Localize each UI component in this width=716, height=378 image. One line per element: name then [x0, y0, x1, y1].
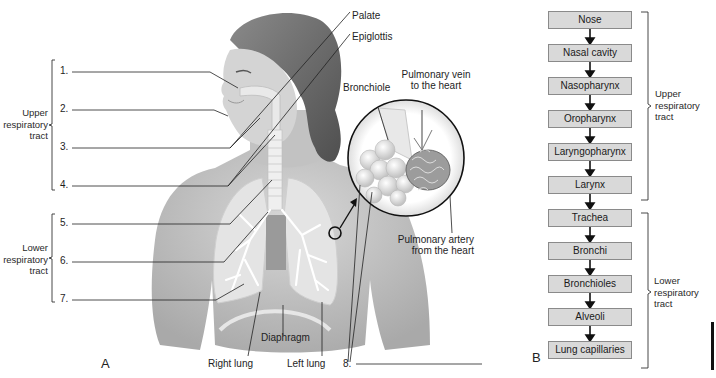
upper-tract-label-b: Upper respiratory tract — [655, 88, 700, 123]
upper-tract-label-a: Upper respiratory tract — [2, 107, 48, 142]
label-line: Upper — [655, 88, 700, 100]
flow-box-bronchi: Bronchi — [548, 242, 632, 260]
trachea-illustration — [268, 130, 282, 210]
flow-box-trachea: Trachea — [548, 209, 632, 227]
edge-bar — [711, 322, 714, 370]
flow-box-bronchioles: Bronchioles — [548, 275, 632, 293]
label-line: Upper — [2, 107, 48, 119]
diaphragm-label: Diaphragm — [261, 332, 310, 343]
pulmonary-vein-label: Pulmonary vein to the heart — [392, 69, 480, 91]
epiglottis-label: Epiglottis — [352, 31, 393, 42]
flow-box-nasal-cavity: Nasal cavity — [548, 44, 632, 62]
label-line: tract — [654, 298, 699, 310]
flow-box-nasopharynx: Nasopharynx — [548, 77, 632, 95]
bronchiole-label: Bronchiole — [343, 82, 390, 93]
palate-label: Palate — [352, 10, 380, 21]
panel-b-letter: B — [532, 350, 541, 365]
flow-box-nose: Nose — [548, 11, 632, 29]
left-lung-label: Left lung — [287, 358, 325, 369]
lower-tract-label-a: Lower respiratory tract — [2, 242, 48, 277]
label-line: tract — [2, 130, 48, 142]
label-line: tract — [2, 265, 48, 277]
label-line: Pulmonary artery — [388, 234, 474, 245]
blank-7: 7. — [60, 293, 68, 304]
capillary-network — [406, 150, 450, 191]
pulmonary-artery-label: Pulmonary artery from the heart — [388, 234, 474, 256]
right-lung-label: Right lung — [208, 358, 253, 369]
flow-box-laryngopharynx: Laryngopharynx — [548, 143, 632, 161]
blank-4: 4. — [60, 179, 68, 190]
label-line: Lower — [654, 275, 699, 287]
blank-1: 1. — [60, 65, 68, 76]
label-line: respiratory — [654, 287, 699, 299]
left-brackets — [49, 60, 55, 302]
lower-tract-label-b: Lower respiratory tract — [654, 275, 699, 310]
label-line: respiratory — [2, 254, 48, 266]
flow-box-alveoli: Alveoli — [548, 308, 632, 326]
right-brackets — [641, 12, 651, 368]
flow-box-oropharynx: Oropharynx — [548, 110, 632, 128]
label-line: to the heart — [392, 80, 480, 91]
blank-3: 3. — [60, 141, 68, 152]
blank-5: 5. — [60, 217, 68, 228]
blank-2: 2. — [60, 103, 68, 114]
label-line: tract — [655, 111, 700, 123]
panel-a-letter: A — [101, 356, 110, 371]
label-line: from the heart — [388, 245, 474, 256]
label-line: Lower — [2, 242, 48, 254]
blank-8: 8. — [343, 358, 351, 369]
label-line: Pulmonary vein — [392, 69, 480, 80]
flow-box-larynx: Larynx — [548, 176, 632, 194]
label-line: respiratory — [2, 119, 48, 131]
label-line: respiratory — [655, 100, 700, 112]
flow-box-lung-capillaries: Lung capillaries — [548, 341, 632, 359]
blank-6: 6. — [60, 255, 68, 266]
